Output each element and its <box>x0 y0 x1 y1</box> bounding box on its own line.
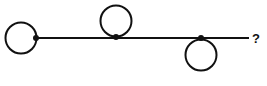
junction-dot <box>198 35 204 41</box>
junction-dot <box>33 35 39 41</box>
junction-dot <box>113 34 119 40</box>
circle-left <box>6 23 37 54</box>
puzzle-diagram <box>0 0 267 86</box>
question-mark-label: ? <box>252 32 260 45</box>
circle-middle <box>101 6 132 37</box>
circle-right <box>186 40 217 71</box>
